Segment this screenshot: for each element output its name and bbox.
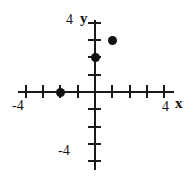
x-tick xyxy=(129,85,131,98)
y-tick xyxy=(88,143,101,145)
y-axis-label: y xyxy=(80,10,88,27)
x-tick-label-min: -4 xyxy=(12,98,24,114)
data-point xyxy=(56,88,65,97)
data-point xyxy=(91,53,100,62)
y-tick xyxy=(88,108,101,110)
y-tick xyxy=(88,126,101,128)
y-axis-line xyxy=(94,20,96,170)
x-tick-label-max: 4 xyxy=(162,99,169,115)
y-tick xyxy=(88,22,101,24)
x-tick xyxy=(146,85,148,98)
x-tick xyxy=(163,85,165,98)
y-tick xyxy=(88,160,101,162)
y-tick-label-min: -4 xyxy=(58,143,70,159)
x-tick xyxy=(77,85,79,98)
data-point xyxy=(108,36,117,45)
y-tick xyxy=(88,74,101,76)
x-axis-label: x xyxy=(175,95,183,112)
x-tick xyxy=(42,85,44,98)
y-tick-label-max: 4 xyxy=(66,12,73,28)
coordinate-plane-chart: x y -4 4 4 -4 xyxy=(0,0,194,180)
x-tick xyxy=(111,85,113,98)
x-tick xyxy=(25,85,27,98)
y-tick xyxy=(88,39,101,41)
